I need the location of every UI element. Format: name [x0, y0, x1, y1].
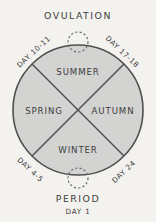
season-label-summer: SUMMER	[56, 67, 99, 77]
season-label-winter: WINTER	[58, 145, 98, 155]
cycle-diagram: OVULATION SUMMER SPRING AUTUMN WINTER DA…	[0, 0, 156, 222]
period-title: PERIOD	[56, 193, 100, 204]
season-label-autumn: AUTUMN	[92, 106, 135, 116]
period-day-subtitle: DAY 1	[65, 207, 90, 216]
ovulation-title: OVULATION	[44, 10, 112, 21]
season-label-spring: SPRING	[25, 106, 63, 116]
